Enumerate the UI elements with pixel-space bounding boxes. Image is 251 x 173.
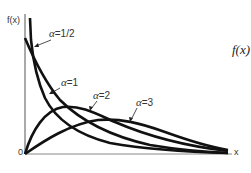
function-label: f(x): [232, 42, 250, 58]
x-axis-label: x: [234, 147, 239, 157]
label-alpha-half: α=1/2: [49, 27, 75, 39]
label-alpha-one: α=1: [61, 76, 78, 88]
y-axis-label: f(x): [7, 15, 20, 25]
curve-alpha-three: [25, 120, 228, 154]
label-alpha-three: α=3: [136, 96, 153, 108]
gamma-chart-plot: [0, 0, 251, 173]
origin-label: 0: [18, 147, 23, 157]
label-alpha-two: α=2: [93, 89, 110, 101]
